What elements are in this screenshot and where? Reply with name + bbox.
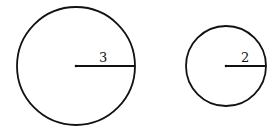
small-radius-label: 2 <box>241 50 249 65</box>
large-radius-label: 3 <box>99 50 107 65</box>
large-circle-group: 3 <box>17 7 135 125</box>
small-circle-group: 2 <box>186 26 266 106</box>
diagram-canvas: 3 2 <box>0 0 278 129</box>
